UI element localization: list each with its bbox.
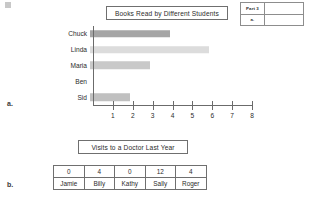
table-cell-value: 0 bbox=[115, 166, 146, 178]
bar-row: Linda bbox=[52, 42, 252, 58]
x-axis-tick-label: 1 bbox=[106, 112, 120, 119]
bar-track bbox=[90, 42, 252, 58]
y-axis-line bbox=[93, 26, 94, 105]
table-cell-value: 4 bbox=[176, 166, 207, 178]
bar-chart-title: Books Read by Different Students bbox=[106, 6, 228, 20]
bar-category-label: Linda bbox=[52, 46, 90, 53]
part-sub-label: a. bbox=[241, 15, 265, 26]
section-letter-a: a. bbox=[7, 100, 13, 107]
bar-row: Maria bbox=[52, 58, 252, 74]
x-axis-tick-label: 6 bbox=[205, 112, 219, 119]
x-axis-tick bbox=[192, 101, 193, 110]
bar-row: Ben bbox=[52, 73, 252, 89]
bar-track bbox=[90, 73, 252, 89]
table-cell-value: 0 bbox=[54, 166, 85, 178]
x-axis-tick-label: 7 bbox=[225, 112, 239, 119]
x-axis-tick-label: 8 bbox=[245, 112, 259, 119]
bar-row: Chuck bbox=[52, 26, 252, 42]
bar-track bbox=[90, 89, 252, 105]
part-box-row-sub: a. bbox=[241, 15, 303, 26]
table-cell-value: 4 bbox=[84, 166, 115, 178]
x-axis-tick bbox=[153, 101, 154, 110]
x-axis-tick bbox=[133, 101, 134, 110]
x-axis-tick bbox=[252, 101, 253, 110]
table-row: JamieBillyKathySallyRoger bbox=[54, 178, 207, 190]
bar-fill bbox=[90, 62, 150, 70]
x-axis-tick bbox=[232, 101, 233, 110]
bar-track bbox=[90, 26, 252, 42]
part-box-row-title: Part 3 bbox=[241, 3, 303, 15]
section-letter-b: b. bbox=[7, 181, 13, 188]
part-box-blank-cell bbox=[265, 3, 303, 14]
scan-artifact-mark bbox=[5, 2, 11, 8]
part-box-blank-cell-2 bbox=[265, 15, 303, 26]
x-axis-tick bbox=[113, 101, 114, 110]
bar-rows-container: ChuckLindaMariaBenSid bbox=[52, 26, 252, 105]
part-number-label: Part 3 bbox=[241, 3, 265, 14]
x-axis-tick-label: 3 bbox=[146, 112, 160, 119]
bar-fill bbox=[90, 46, 209, 54]
bar-category-label: Sid bbox=[52, 94, 90, 101]
table-cell-name: Kathy bbox=[115, 178, 146, 190]
bar-category-label: Chuck bbox=[52, 30, 90, 37]
table-cell-name: Jamie bbox=[54, 178, 85, 190]
table-cell-value: 12 bbox=[145, 166, 176, 178]
x-axis-tick bbox=[173, 101, 174, 110]
visits-data-table: 040124JamieBillyKathySallyRoger bbox=[53, 165, 207, 190]
table-cell-name: Billy bbox=[84, 178, 115, 190]
table-row: 040124 bbox=[54, 166, 207, 178]
bar-chart: ChuckLindaMariaBenSid 12345678 bbox=[52, 26, 252, 126]
table-title: Visits to a Doctor Last Year bbox=[78, 140, 188, 154]
bar-category-label: Maria bbox=[52, 62, 90, 69]
table-cell-name: Sally bbox=[145, 178, 176, 190]
bar-fill bbox=[90, 30, 170, 38]
bar-track bbox=[90, 58, 252, 74]
x-axis-tick bbox=[212, 101, 213, 110]
part-label-box: Part 3 a. bbox=[240, 2, 304, 26]
x-axis-tick-label: 5 bbox=[185, 112, 199, 119]
bar-fill bbox=[90, 93, 130, 101]
bar-category-label: Ben bbox=[52, 78, 90, 85]
table-cell-name: Roger bbox=[176, 178, 207, 190]
x-axis-tick-label: 4 bbox=[166, 112, 180, 119]
x-axis-tick-label: 2 bbox=[126, 112, 140, 119]
